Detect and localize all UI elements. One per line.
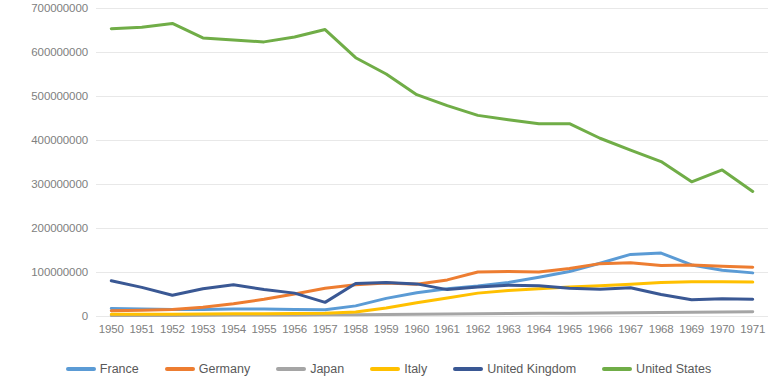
x-tick-label-1962: 1962 bbox=[465, 322, 490, 336]
legend-swatch-united-states bbox=[602, 367, 632, 371]
legend-swatch-japan bbox=[276, 367, 306, 371]
x-tick-label-1960: 1960 bbox=[404, 322, 429, 336]
x-tick-label-1950: 1950 bbox=[99, 322, 124, 336]
legend-item-united-kingdom[interactable]: United Kingdom bbox=[453, 362, 576, 376]
x-tick-label-1970: 1970 bbox=[710, 322, 735, 336]
x-tick-label-1971: 1971 bbox=[740, 322, 765, 336]
y-tick-label-0: 0 bbox=[0, 310, 88, 322]
legend-item-germany[interactable]: Germany bbox=[165, 362, 250, 376]
x-tick-label-1952: 1952 bbox=[160, 322, 185, 336]
x-tick-label-1954: 1954 bbox=[221, 322, 246, 336]
legend-item-united-states[interactable]: United States bbox=[602, 362, 711, 376]
legend-swatch-italy bbox=[370, 367, 400, 371]
y-tick-label-700000000: 700000000 bbox=[0, 2, 88, 14]
y-tick-label-600000000: 600000000 bbox=[0, 46, 88, 58]
x-tick-label-1965: 1965 bbox=[557, 322, 582, 336]
x-tick-label-1967: 1967 bbox=[618, 322, 643, 336]
x-tick-label-1951: 1951 bbox=[129, 322, 154, 336]
x-axis: 1950195119521953195419551956195719581959… bbox=[96, 322, 768, 340]
y-tick-label-300000000: 300000000 bbox=[0, 178, 88, 190]
y-tick-label-400000000: 400000000 bbox=[0, 134, 88, 146]
series-line-united-states bbox=[111, 23, 752, 191]
x-tick-label-1953: 1953 bbox=[191, 322, 216, 336]
legend-label: Germany bbox=[199, 362, 250, 376]
x-tick-label-1958: 1958 bbox=[343, 322, 368, 336]
x-tick-label-1956: 1956 bbox=[282, 322, 307, 336]
x-tick-label-1966: 1966 bbox=[588, 322, 613, 336]
legend-label: Italy bbox=[404, 362, 427, 376]
legend-swatch-germany bbox=[165, 367, 195, 371]
legend-swatch-united-kingdom bbox=[453, 367, 483, 371]
y-tick-label-100000000: 100000000 bbox=[0, 266, 88, 278]
legend-label: United Kingdom bbox=[487, 362, 576, 376]
legend-label: United States bbox=[636, 362, 711, 376]
x-tick-label-1964: 1964 bbox=[527, 322, 552, 336]
y-tick-label-200000000: 200000000 bbox=[0, 222, 88, 234]
x-tick-label-1955: 1955 bbox=[252, 322, 277, 336]
x-tick-label-1969: 1969 bbox=[679, 322, 704, 336]
legend-label: Japan bbox=[310, 362, 344, 376]
legend-item-italy[interactable]: Italy bbox=[370, 362, 427, 376]
chart-legend: FranceGermanyJapanItalyUnited KingdomUni… bbox=[0, 358, 777, 380]
plot-area bbox=[96, 8, 768, 316]
y-axis: 0100000000200000000300000000400000000500… bbox=[0, 8, 88, 316]
y-tick-label-500000000: 500000000 bbox=[0, 90, 88, 102]
series-lines bbox=[96, 8, 768, 316]
legend-label: France bbox=[100, 362, 139, 376]
x-tick-label-1968: 1968 bbox=[649, 322, 674, 336]
legend-item-france[interactable]: France bbox=[66, 362, 139, 376]
x-tick-label-1961: 1961 bbox=[435, 322, 460, 336]
line-chart: 0100000000200000000300000000400000000500… bbox=[0, 0, 777, 384]
x-tick-label-1963: 1963 bbox=[496, 322, 521, 336]
legend-swatch-france bbox=[66, 367, 96, 371]
x-tick-label-1957: 1957 bbox=[313, 322, 338, 336]
x-tick-label-1959: 1959 bbox=[374, 322, 399, 336]
legend-item-japan[interactable]: Japan bbox=[276, 362, 344, 376]
